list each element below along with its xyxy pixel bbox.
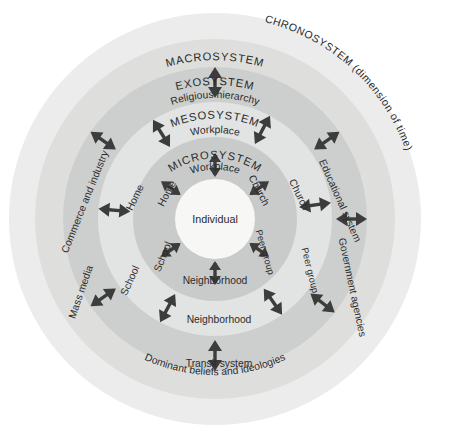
microsystem-label-neighborhood: Neighborhood (183, 275, 248, 286)
diagram-canvas: Individual MICROSYSTEM Workplace Church … (0, 0, 453, 444)
core-individual-label: Individual (192, 213, 238, 225)
mesosystem-label-neighborhood: Neighborhood (187, 314, 252, 325)
ecological-systems-diagram: Individual MICROSYSTEM Workplace Church … (0, 0, 453, 444)
